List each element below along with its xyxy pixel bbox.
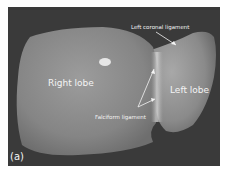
left-lobe-label: Left lobe	[170, 86, 209, 95]
right-lobe-label: Right lobe	[48, 79, 94, 88]
liver-photograph: Right lobe Left lobe Left coronal ligame…	[8, 7, 220, 166]
specular-highlight	[99, 58, 111, 66]
right-lobe-shape	[17, 27, 159, 155]
left-coronal-ligament-label: Left coronal ligament	[131, 25, 189, 31]
panel-label: (a)	[10, 152, 24, 162]
falciform-ligament-label: Falciform ligament	[95, 115, 146, 121]
falciform-ligament-shape	[151, 52, 163, 122]
